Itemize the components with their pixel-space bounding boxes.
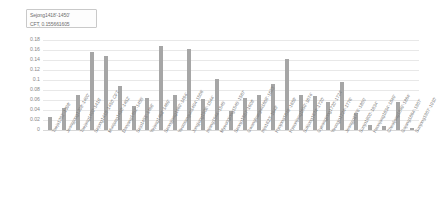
y-axis-tick-label: 0.1 bbox=[20, 77, 40, 82]
y-axis: 0.180.160.140.120.10.080.060.040.020 bbox=[18, 40, 40, 131]
y-axis-tick-label: 0.08 bbox=[20, 87, 40, 92]
tooltip-series-label: Sejong1418'-1450' bbox=[30, 11, 94, 20]
y-axis-tick-label: 0.18 bbox=[20, 37, 40, 42]
chart-tooltip: Sejong1418'-1450' CFT, 0.155661605 bbox=[26, 9, 97, 28]
y-axis-tick-label: 0.14 bbox=[20, 57, 40, 62]
y-axis-tick-label: 0.16 bbox=[20, 47, 40, 52]
y-axis-tick-label: 0.02 bbox=[20, 117, 40, 122]
x-axis: Taejo1392'-1398'Jeongjong1398'-1400'Taej… bbox=[43, 131, 424, 208]
y-axis-tick-label: 0 bbox=[20, 127, 40, 132]
y-axis-tick-label: 0.04 bbox=[20, 107, 40, 112]
y-axis-tick-label: 0.06 bbox=[20, 97, 40, 102]
tooltip-value-label: CFT, 0.155661605 bbox=[30, 20, 94, 29]
y-axis-tick-label: 0.12 bbox=[20, 67, 40, 72]
